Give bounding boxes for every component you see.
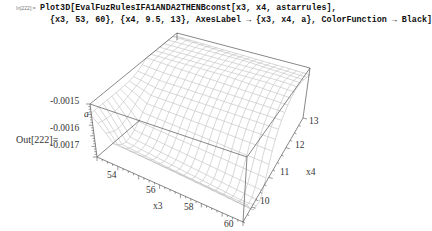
y-tick-label: 12 (295, 140, 305, 150)
y-tick-label: 13 (309, 116, 319, 126)
z-tick-label: -0.0016 (50, 123, 80, 133)
y-tick-label: 11 (280, 167, 289, 177)
x-tick-label: 56 (146, 185, 156, 195)
bounding-box (90, 33, 310, 222)
y-tick-label: 10 (260, 196, 270, 206)
z-axis-labels: -0.0015 a -0.0016 -0.0017 (50, 96, 89, 150)
y-axis-label: x4 (306, 167, 316, 177)
x-tick-label: 54 (107, 170, 117, 180)
y-axis-labels: 10 11 12 13 x4 (260, 116, 319, 206)
z-axis-label: a (84, 109, 89, 119)
x-tick-label: 58 (184, 202, 194, 212)
surface-mesh (90, 36, 310, 210)
z-tick-label: -0.0017 (50, 140, 80, 150)
z-tick-label: -0.0015 (50, 96, 80, 106)
x-axis-label: x3 (153, 201, 163, 211)
x-tick-label: 60 (224, 219, 234, 229)
